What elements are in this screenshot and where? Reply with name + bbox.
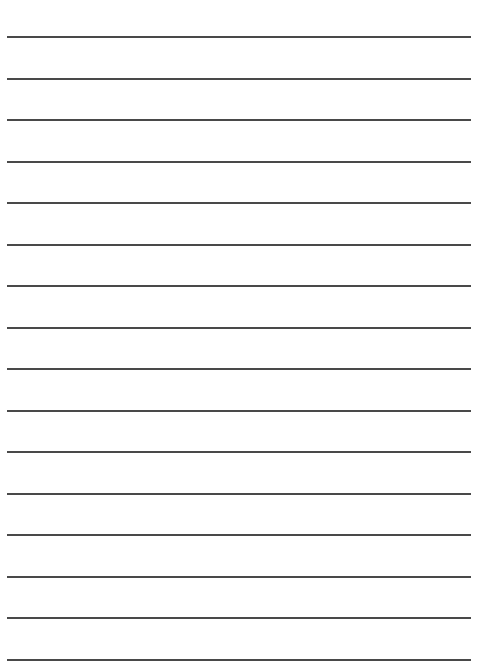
- ruled-line: [7, 493, 471, 495]
- ruled-line: [7, 576, 471, 578]
- ruled-line: [7, 78, 471, 80]
- ruled-line: [7, 451, 471, 453]
- lined-paper-sheet: [0, 0, 478, 669]
- ruled-line: [7, 202, 471, 204]
- ruled-line: [7, 285, 471, 287]
- ruled-line: [7, 368, 471, 370]
- ruled-line: [7, 161, 471, 163]
- ruled-line: [7, 534, 471, 536]
- ruled-line: [7, 410, 471, 412]
- ruled-line: [7, 617, 471, 619]
- ruled-line: [7, 659, 471, 661]
- ruled-line: [7, 327, 471, 329]
- ruled-line: [7, 36, 471, 38]
- ruled-line: [7, 119, 471, 121]
- ruled-line: [7, 244, 471, 246]
